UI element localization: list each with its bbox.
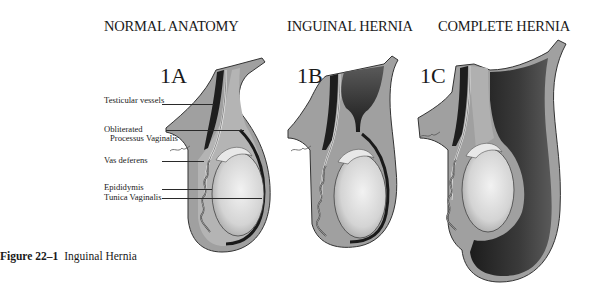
leader-line-tunica-vaginalis xyxy=(162,198,262,199)
figure-caption: Figure 22–1Inguinal Hernia xyxy=(0,250,137,262)
panel-1c-illustration xyxy=(418,40,566,282)
label-processus-vaginalis: Processus Vaginalis xyxy=(110,134,178,143)
label-epididymis: Epididymis xyxy=(104,183,144,192)
label-tunica-vaginalis: Tunica Vaginalis xyxy=(104,193,162,202)
leader-line-epididymis xyxy=(162,189,212,190)
figure-title: Inguinal Hernia xyxy=(64,250,137,262)
label-testicular-vessels: Testicular vessels xyxy=(104,96,164,105)
hernia-illustrations xyxy=(0,0,607,289)
leader-line-obliterated-processus xyxy=(166,130,244,131)
leader-line-testicular-vessels xyxy=(162,104,214,105)
figure-number: Figure 22–1 xyxy=(0,250,58,262)
panel-1a-illustration xyxy=(166,58,270,252)
leader-line-vas-deferens xyxy=(162,161,204,162)
label-vas-deferens: Vas deferens xyxy=(104,156,148,165)
panel-1b-illustration xyxy=(288,56,398,247)
